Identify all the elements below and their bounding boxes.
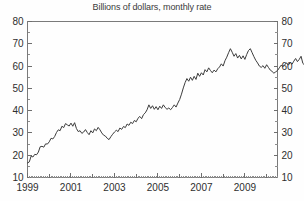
svg-text:50: 50	[12, 83, 24, 94]
svg-text:20: 20	[12, 150, 24, 161]
svg-text:2009: 2009	[234, 182, 257, 193]
chart-plot-area: 1020304050607080 1020304050607080 199920…	[0, 0, 304, 201]
y-axis-labels-right: 1020304050607080	[282, 16, 294, 183]
svg-text:10: 10	[282, 172, 294, 183]
svg-text:40: 40	[12, 105, 24, 116]
data-series-line	[28, 49, 305, 163]
y-axis-ticks-right	[274, 22, 278, 178]
plot-frame	[28, 22, 278, 178]
svg-text:80: 80	[12, 16, 24, 27]
svg-text:80: 80	[282, 16, 294, 27]
chart-container: Billions of dollars, monthly rate 102030…	[0, 0, 304, 201]
svg-text:50: 50	[282, 83, 294, 94]
y-axis-labels-left: 1020304050607080	[12, 16, 24, 183]
svg-text:1999: 1999	[16, 182, 39, 193]
x-axis-labels: 199920012003200520072009	[16, 182, 256, 193]
svg-text:70: 70	[12, 38, 24, 49]
svg-text:2003: 2003	[103, 182, 126, 193]
y-axis-ticks-left	[28, 22, 32, 178]
svg-text:60: 60	[12, 61, 24, 72]
svg-text:2005: 2005	[147, 182, 170, 193]
svg-text:30: 30	[12, 127, 24, 138]
svg-text:30: 30	[282, 127, 294, 138]
svg-text:2007: 2007	[190, 182, 213, 193]
svg-text:40: 40	[282, 105, 294, 116]
series-monthly-rate	[28, 49, 305, 163]
svg-text:20: 20	[282, 150, 294, 161]
svg-text:2001: 2001	[60, 182, 83, 193]
svg-text:70: 70	[282, 38, 294, 49]
x-axis-ticks	[28, 173, 278, 178]
